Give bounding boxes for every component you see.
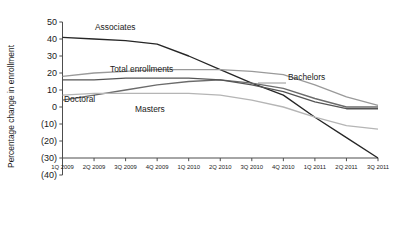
y-axis-title: Percentage change in enrollment xyxy=(6,44,16,168)
series-label-bachelors: Bachelors xyxy=(288,72,325,82)
y-tick-label: (40) xyxy=(41,170,57,180)
series-label-doctoral: Doctoral xyxy=(64,94,95,104)
x-tick-label: 4Q 2009 xyxy=(146,164,169,170)
series-label-associates: Associates xyxy=(95,22,136,32)
plot-background xyxy=(0,0,411,225)
y-tick-label: 40 xyxy=(47,34,57,44)
x-tick-label: 2Q 2011 xyxy=(335,164,357,170)
x-tick-label: 3Q 2011 xyxy=(367,164,389,170)
y-axis-title-text: Percentage change in enrollment xyxy=(6,44,16,168)
x-tick-label: 1Q 2010 xyxy=(177,164,200,170)
enrollment-change-line-chart: 50403020100(10)(20)(30)(40) 1Q 20092Q 20… xyxy=(0,0,411,225)
y-tick-label: (10) xyxy=(41,119,57,129)
chart-container: 50403020100(10)(20)(30)(40) 1Q 20092Q 20… xyxy=(0,0,411,225)
y-tick-label: 10 xyxy=(47,85,57,95)
x-tick-label: 3Q 2009 xyxy=(114,164,137,170)
x-tick-label: 4Q 2010 xyxy=(272,164,295,170)
y-tick-label: 0 xyxy=(52,102,57,112)
series-label-total-enrollments: Total enrollments xyxy=(110,64,173,74)
x-tick-label: 1Q 2009 xyxy=(51,164,74,170)
x-tick-label: 1Q 2011 xyxy=(304,164,326,170)
series-label-masters: Masters xyxy=(135,104,165,114)
x-tick-label: 3Q 2010 xyxy=(240,164,263,170)
y-tick-label: 30 xyxy=(47,51,57,61)
y-tick-label: (20) xyxy=(41,136,57,146)
x-tick-label: 2Q 2009 xyxy=(83,164,106,170)
y-tick-label: (30) xyxy=(41,153,57,163)
x-tick-label: 2Q 2010 xyxy=(209,164,232,170)
y-tick-label: 20 xyxy=(47,68,57,78)
y-tick-label: 50 xyxy=(47,17,57,27)
